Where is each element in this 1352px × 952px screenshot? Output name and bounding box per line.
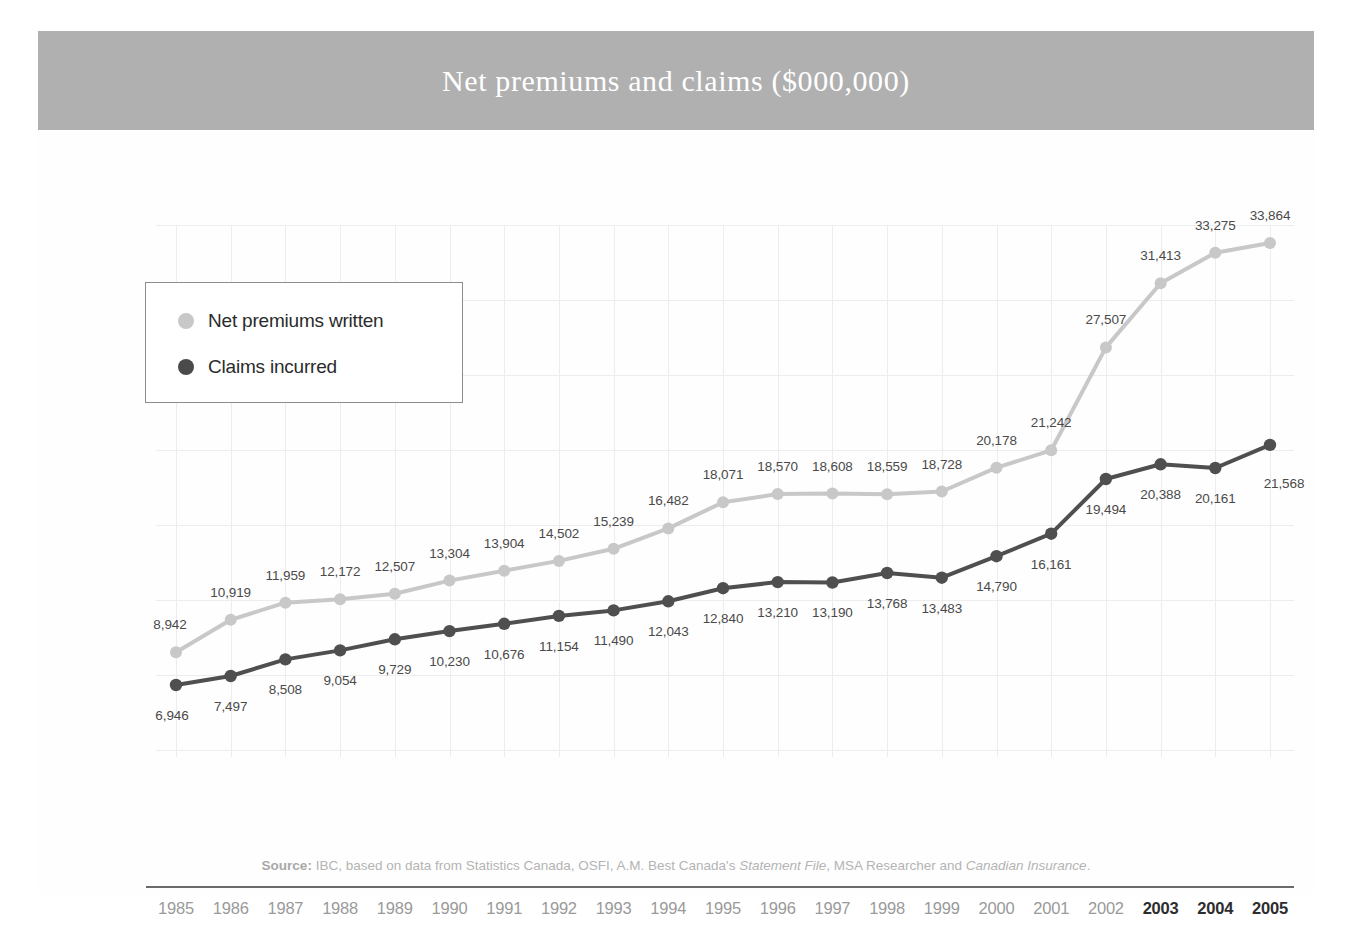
page-title: Net premiums and claims ($000,000) (38, 31, 1314, 130)
x-tick-1989: 1989 (377, 899, 413, 918)
x-tick-1990: 1990 (432, 899, 468, 918)
legend: Net premiums written Claims incurred (145, 282, 463, 403)
data-point-marker (607, 604, 619, 616)
data-point-label: 18,608 (812, 458, 853, 473)
data-point-label: 12,043 (648, 624, 689, 639)
data-point-label: 20,161 (1195, 491, 1236, 506)
data-point-marker (1264, 237, 1276, 249)
data-point-label: 13,210 (757, 605, 798, 620)
data-point-marker (662, 595, 674, 607)
data-point-marker (498, 618, 510, 630)
source-prefix: Source: (262, 858, 312, 873)
data-point-label: 18,728 (921, 456, 962, 471)
data-point-label: 13,904 (484, 535, 525, 550)
data-point-label: 15,239 (593, 513, 634, 528)
source-suffix: . (1087, 858, 1091, 873)
data-point-marker (826, 576, 838, 588)
data-point-label: 8,942 (153, 617, 186, 632)
data-point-marker (443, 625, 455, 637)
data-point-marker (170, 646, 182, 658)
data-point-label: 11,154 (539, 638, 579, 653)
data-point-marker (1100, 473, 1112, 485)
x-tick-2004: 2004 (1197, 899, 1233, 918)
data-point-marker (225, 670, 237, 682)
data-point-label: 31,413 (1140, 248, 1181, 263)
data-point-marker (553, 610, 565, 622)
source-note: Source: IBC, based on data from Statisti… (38, 858, 1314, 873)
title-band: Net premiums and claims ($000,000) (38, 31, 1314, 130)
data-point-marker (1100, 341, 1112, 353)
legend-item-net-premiums-written: Net premiums written (178, 310, 384, 332)
data-point-label: 16,482 (648, 493, 689, 508)
figure-root: Net premiums and claims ($000,000) 8,942… (0, 0, 1352, 952)
data-point-marker (608, 543, 620, 555)
x-tick-1995: 1995 (705, 899, 741, 918)
data-point-label: 12,840 (703, 611, 744, 626)
data-point-marker (334, 593, 346, 605)
data-point-marker (772, 488, 784, 500)
data-point-marker (1045, 444, 1057, 456)
data-point-marker (662, 522, 674, 534)
data-point-label: 6,946 (155, 708, 188, 723)
data-point-label: 10,676 (484, 646, 525, 661)
data-point-label: 7,497 (214, 698, 247, 713)
data-point-marker (389, 633, 401, 645)
x-tick-1985: 1985 (158, 899, 194, 918)
data-point-marker (990, 550, 1002, 562)
data-point-marker (1209, 247, 1221, 259)
x-tick-1999: 1999 (924, 899, 960, 918)
source-italic-2: Canadian Insurance (966, 858, 1087, 873)
x-tick-1998: 1998 (869, 899, 905, 918)
data-point-label: 12,507 (374, 558, 415, 573)
x-tick-1993: 1993 (596, 899, 632, 918)
data-point-marker (225, 614, 237, 626)
data-point-label: 13,190 (812, 605, 853, 620)
data-point-label: 13,304 (429, 545, 470, 560)
x-tick-2002: 2002 (1088, 899, 1124, 918)
data-point-marker (279, 653, 291, 665)
data-point-marker (881, 488, 893, 500)
x-tick-1986: 1986 (213, 899, 249, 918)
legend-dot-icon-premiums (178, 313, 194, 329)
data-point-marker (279, 597, 291, 609)
data-point-marker (170, 679, 182, 691)
data-point-marker (1264, 439, 1276, 451)
data-point-marker (772, 576, 784, 588)
data-point-label: 12,172 (320, 564, 361, 579)
data-point-marker (1209, 462, 1221, 474)
data-point-label: 11,490 (594, 633, 634, 648)
legend-item-claims-incurred: Claims incurred (178, 356, 337, 378)
data-point-marker (717, 496, 729, 508)
data-point-label: 14,502 (539, 525, 580, 540)
data-point-marker (389, 588, 401, 600)
data-point-label: 8,508 (269, 682, 302, 697)
data-point-label: 20,388 (1140, 487, 1181, 502)
data-point-label: 18,071 (703, 467, 744, 482)
data-point-label: 9,054 (323, 673, 356, 688)
legend-dot-icon-claims (178, 359, 194, 375)
data-point-marker (1155, 277, 1167, 289)
data-point-marker (553, 555, 565, 567)
data-point-marker (1045, 528, 1057, 540)
x-tick-2001: 2001 (1033, 899, 1069, 918)
data-point-label: 10,919 (210, 584, 251, 599)
data-point-marker (936, 486, 948, 498)
data-point-marker (991, 462, 1003, 474)
data-point-label: 14,790 (976, 579, 1017, 594)
x-tick-2000: 2000 (979, 899, 1015, 918)
data-point-label: 11,959 (266, 567, 306, 582)
x-tick-1996: 1996 (760, 899, 796, 918)
data-point-label: 18,570 (757, 459, 798, 474)
source-italic-1: Statement File (739, 858, 826, 873)
data-point-marker (826, 488, 838, 500)
legend-label-claims: Claims incurred (208, 356, 337, 378)
data-point-label: 13,768 (867, 595, 908, 610)
x-tick-1992: 1992 (541, 899, 577, 918)
plot-area: 8,94210,91911,95912,17212,50713,30413,90… (38, 130, 1314, 895)
data-point-label: 18,559 (867, 459, 908, 474)
data-point-label: 16,161 (1031, 556, 1072, 571)
data-point-marker (334, 644, 346, 656)
source-text-2: , MSA Researcher and (826, 858, 966, 873)
data-point-marker (444, 575, 456, 587)
data-point-label: 10,230 (429, 654, 470, 669)
